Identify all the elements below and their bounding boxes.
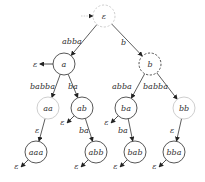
node-label: a	[62, 60, 67, 69]
final-label: ε	[33, 60, 37, 69]
final-arrow-icon	[159, 160, 166, 167]
node-label: aa	[43, 104, 53, 113]
final-label: ε	[104, 118, 108, 127]
node-bba: bbaε	[152, 141, 185, 171]
final-arrow-icon	[111, 116, 118, 123]
node-label: bab	[127, 148, 142, 157]
node-bab: babε	[113, 141, 146, 171]
tree-svg: abbabbabbabaabbababbaεbabaε εaεbaaabεbaε…	[0, 0, 205, 182]
edge-label: ε	[35, 126, 39, 135]
node-aa: aa	[37, 97, 59, 119]
tree-diagram: abbabbabbabaabbababbaεbabaε εaεbaaabεbaε…	[0, 0, 205, 182]
node-bb: bb	[173, 97, 195, 119]
edge-label: babba	[143, 82, 168, 91]
final-label: ε	[74, 162, 78, 171]
final-label: ε	[152, 162, 156, 171]
edge-label: ba	[118, 126, 128, 135]
edge-label: abba	[112, 82, 132, 91]
final-label: ε	[113, 162, 117, 171]
node-label: ε	[102, 12, 106, 21]
edge-label: ba	[79, 126, 89, 135]
node-ba: baε	[104, 97, 137, 127]
node-b: b	[139, 53, 161, 75]
node-ab: abε	[60, 97, 93, 127]
node-abb: abbε	[74, 141, 107, 171]
edge-aa-aaa	[39, 119, 45, 141]
node-a: aε	[33, 53, 75, 75]
edge-label: babba	[30, 82, 55, 91]
node-label: aaa	[29, 148, 44, 157]
final-arrow-icon	[21, 160, 28, 167]
final-label: ε	[60, 118, 64, 127]
final-label: ε	[14, 162, 18, 171]
node-label: bba	[166, 148, 181, 157]
edge-ba-bab	[128, 119, 132, 141]
edge-bb-bba	[177, 119, 182, 141]
edge-label: ba	[68, 82, 78, 91]
edge-label: ε	[170, 126, 174, 135]
node-aaa: aaaε	[14, 141, 47, 171]
final-arrow-icon	[67, 116, 74, 123]
node-label: abb	[88, 148, 103, 157]
edge-eps-b	[112, 24, 142, 56]
final-arrow-icon	[81, 160, 88, 167]
node-label: ab	[77, 104, 87, 113]
final-arrow-icon	[120, 160, 127, 167]
edge-label: b	[121, 38, 126, 47]
edge-label: abba	[62, 37, 82, 46]
node-label: ba	[121, 104, 131, 113]
node-eps: ε	[81, 5, 115, 27]
node-label: bb	[179, 104, 189, 113]
node-label: b	[147, 60, 152, 69]
